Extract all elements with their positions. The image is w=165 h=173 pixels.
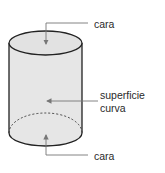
bottom-face-label: cara (94, 150, 114, 162)
top-face (9, 31, 82, 55)
curved-surface-label-2: curva (100, 102, 126, 114)
curved-surface-label-1: superficie (100, 89, 145, 101)
top-face-label: cara (94, 18, 114, 30)
cylinder-diagram (0, 0, 165, 173)
cylinder-body (9, 43, 82, 146)
